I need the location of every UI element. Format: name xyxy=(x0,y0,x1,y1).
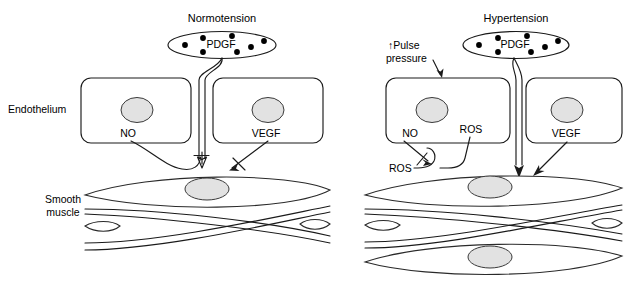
smooth-muscle-nucleus-right-hypertension xyxy=(592,219,622,229)
vegf-arrow-hypertension xyxy=(533,142,567,176)
smooth-muscle-hypertension xyxy=(365,176,622,275)
panel-title-hypertension: Hypertension xyxy=(484,12,549,24)
figure-root: Endothelium Smooth muscle Normotension P… xyxy=(0,0,628,300)
diagram-canvas: Endothelium Smooth muscle Normotension P… xyxy=(0,0,628,300)
label-vegf-normotension: VEGF xyxy=(252,127,281,139)
side-label-endothelium: Endothelium xyxy=(8,103,67,115)
side-label-smooth-muscle-line1: Smooth xyxy=(45,193,81,205)
pdgf-signal-hypertension xyxy=(513,58,524,178)
label-vegf-hypertension: VEGF xyxy=(552,127,581,139)
panel-title-normotension: Normotension xyxy=(188,12,256,24)
nucleus-left-normotension xyxy=(121,98,153,123)
pulse-pressure-line1: ↑Pulse xyxy=(388,39,420,51)
pdgf-label-normotension: PDGF xyxy=(206,38,235,50)
nucleus-right-normotension xyxy=(252,98,284,123)
pulse-pressure-annotation: ↑Pulse pressure xyxy=(386,39,444,78)
panel-hypertension: Hypertension PDGF ↑Pulse pressure xyxy=(365,12,622,274)
label-no-normotension: NO xyxy=(120,127,136,139)
side-label-smooth-muscle-line2: muscle xyxy=(46,206,79,218)
pulse-pressure-line2: pressure xyxy=(386,52,427,64)
smooth-muscle-nucleus-3-hypertension xyxy=(468,246,512,268)
smooth-muscle-nucleus-right-normotension xyxy=(300,220,330,230)
smooth-muscle-nucleus-1-hypertension xyxy=(468,176,512,198)
smooth-muscle-nucleus-left-hypertension xyxy=(365,221,400,231)
smooth-muscle-normotension xyxy=(85,177,330,250)
label-no-hypertension: NO xyxy=(402,127,418,139)
smooth-muscle-nucleus-1-normotension xyxy=(185,178,229,200)
label-ros-inside-hypertension: ROS xyxy=(460,123,483,135)
pdgf-label-hypertension: PDGF xyxy=(500,38,529,50)
nucleus-right-hypertension xyxy=(551,98,583,123)
nucleus-left-hypertension xyxy=(416,98,448,123)
vegf-arrow-blocked-normotension xyxy=(229,141,268,171)
panel-normotension: Normotension PDGF NO VEGF xyxy=(81,12,330,250)
no-inhibition-normotension xyxy=(131,141,209,169)
label-ros-outside-hypertension: ROS xyxy=(389,162,412,174)
smooth-muscle-nucleus-left-normotension xyxy=(85,222,120,232)
